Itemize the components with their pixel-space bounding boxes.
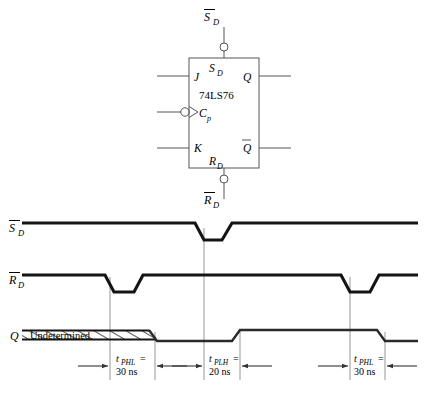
internal-rd-letter: R (208, 155, 216, 167)
sd-inversion-bubble (220, 43, 228, 51)
pin-label-qbar: Q (242, 140, 252, 154)
waveform-q: Undetermined (22, 330, 418, 341)
tphl2-equals: = (378, 353, 384, 364)
pin-label-cp-subscript: p (206, 114, 211, 123)
tphl2-value: 30 ns (354, 366, 376, 377)
tplh1-value: 20 ns (209, 366, 231, 377)
external-sd-letter: S (204, 10, 210, 24)
external-rd-letter: R (203, 193, 212, 207)
wf-rd-letter: R (8, 273, 17, 287)
annotation-tplh-1: t PLH = 20 ns (172, 353, 272, 377)
schematic-labels: S D S D J 74LS76 C p K R D R D (193, 10, 252, 210)
wf-q-letter: Q (10, 329, 19, 343)
waveform-rd-bar (22, 275, 418, 292)
waveform-q-trace (149, 330, 418, 341)
pin-label-k: K (193, 142, 203, 154)
pin-label-cp-letter: C (199, 107, 207, 119)
wf-sd-letter: S (9, 221, 15, 235)
pin-label-cp: C p (199, 107, 211, 123)
clock-dynamic-triangle (189, 107, 198, 118)
internal-rd-subscript: D (216, 162, 223, 171)
wf-rd-subscript: D (17, 280, 25, 290)
schematic-group (157, 27, 291, 199)
pin-label-j: J (194, 71, 200, 83)
flip-flop-timing-diagram: S D S D J 74LS76 C p K R D R D (0, 0, 430, 395)
internal-sd-letter: S (209, 62, 215, 74)
pin-label-q: Q (243, 71, 252, 83)
tphl1-symbol: t (116, 353, 119, 364)
tphl1-equals: = (140, 353, 146, 364)
wf-sd-subscript: D (17, 228, 25, 238)
annotation-tphl-1: t PHL = 30 ns (78, 353, 187, 377)
pin-label-qbar-letter: Q (243, 142, 252, 154)
part-number-label: 74LS76 (199, 89, 234, 101)
tplh1-symbol: t (209, 353, 212, 364)
clock-inversion-bubble (181, 108, 189, 116)
tphl1-value: 30 ns (116, 366, 138, 377)
reference-lines (110, 228, 385, 380)
external-rd-label: R D (203, 193, 220, 210)
waveform-row-labels: S D R D Q (8, 221, 25, 344)
external-sd-subscript: D (212, 17, 220, 27)
tphl2-symbol: t (354, 353, 357, 364)
figure-root: S D S D J 74LS76 C p K R D R D (0, 0, 430, 395)
waveform-sd-bar (22, 223, 418, 240)
rd-inversion-bubble (220, 175, 228, 183)
internal-sd-label: S D (209, 62, 223, 78)
undetermined-label: Undetermined (30, 330, 91, 341)
tplh1-equals: = (233, 353, 239, 364)
external-sd-label: S D (204, 10, 220, 27)
annotation-tphl-2: t PHL = 30 ns (318, 353, 417, 377)
external-rd-subscript: D (212, 200, 220, 210)
internal-sd-subscript: D (216, 69, 223, 78)
